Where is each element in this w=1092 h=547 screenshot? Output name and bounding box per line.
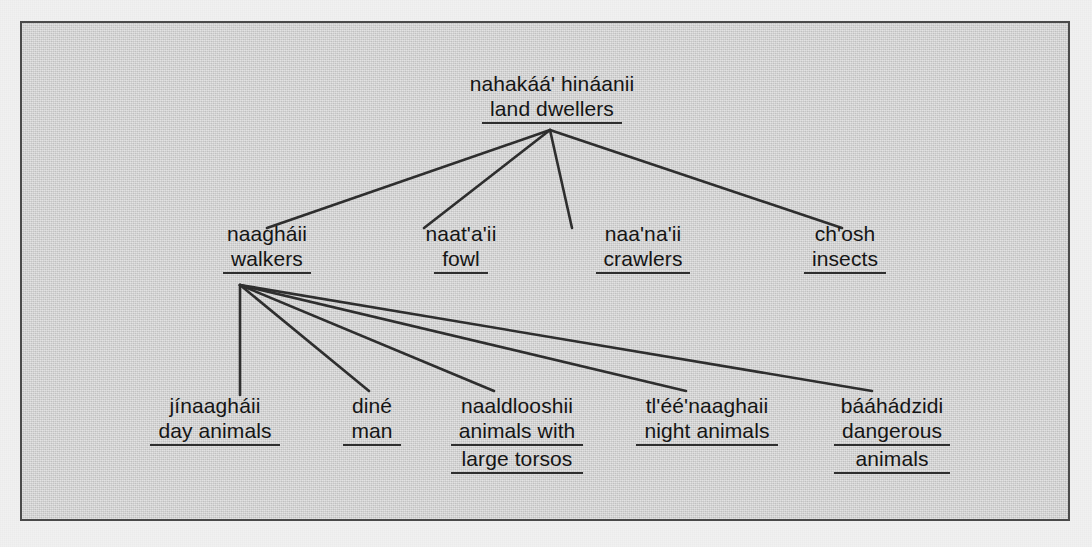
insects-gloss-wrap: insects [804,246,886,274]
tree-node-night-animals: tl'éé'naaghaii night animals [612,393,802,446]
night-animals-gloss-wrap: night animals [636,418,777,446]
large-torsos-gloss-line-1: animals with [451,418,584,446]
connector-walkers-to-dangerous [240,285,872,391]
diagram-panel: nahakáá' hináanii land dwellers naagháii… [20,21,1070,521]
root-gloss-wrap: land dwellers [482,96,622,124]
connector-root-to-crawlers [550,130,572,228]
walkers-gloss: walkers [223,246,311,274]
tree-node-dangerous-animals: bááhádzidi dangerous animals [802,393,982,474]
day-animals-term: jínaagháii [120,393,310,418]
day-animals-gloss-wrap: day animals [150,418,279,446]
root-term: nahakáá' hináanii [442,71,662,96]
large-torsos-gloss-wrap: animals with large torsos [451,418,584,474]
fowl-gloss: fowl [434,246,488,274]
walkers-term: naagháii [182,221,352,246]
crawlers-gloss-wrap: crawlers [596,246,691,274]
dangerous-animals-gloss-wrap: dangerous animals [834,418,950,474]
tree-node-crawlers: naa'na'ii crawlers [562,221,724,274]
man-gloss-wrap: man [343,418,400,446]
man-gloss: man [343,418,400,446]
day-animals-gloss: day animals [150,418,279,446]
fowl-gloss-wrap: fowl [434,246,488,274]
dangerous-animals-term: bááhádzidi [802,393,982,418]
figure-canvas: nahakáá' hináanii land dwellers naagháii… [0,0,1092,547]
tree-node-walkers: naagháii walkers [182,221,352,274]
large-torsos-term: naaldlooshii [422,393,612,418]
connector-root-to-insects [550,130,842,228]
night-animals-term: tl'éé'naaghaii [612,393,802,418]
man-term: diné [312,393,432,418]
crawlers-gloss: crawlers [596,246,691,274]
connector-root-to-fowl [424,130,550,228]
walkers-gloss-wrap: walkers [223,246,311,274]
tree-node-insects: ch'osh insects [764,221,926,274]
fowl-term: naat'a'ii [380,221,542,246]
crawlers-term: naa'na'ii [562,221,724,246]
tree-node-large-torsos: naaldlooshii animals with large torsos [422,393,612,474]
tree-node-day-animals: jínaagháii day animals [120,393,310,446]
large-torsos-gloss-line-2: large torsos [451,446,584,474]
insects-term: ch'osh [764,221,926,246]
connector-walkers-to-torsos [240,285,494,391]
tree-node-man: diné man [312,393,432,446]
dangerous-animals-gloss-line-1: dangerous [834,418,950,446]
dangerous-animals-gloss-line-2: animals [834,446,950,474]
tree-node-root: nahakáá' hináanii land dwellers [442,71,662,124]
tree-node-fowl: naat'a'ii fowl [380,221,542,274]
root-gloss: land dwellers [482,96,622,124]
connector-root-to-walkers [267,130,550,228]
insects-gloss: insects [804,246,886,274]
night-animals-gloss: night animals [636,418,777,446]
connector-walkers-to-night [240,285,686,391]
